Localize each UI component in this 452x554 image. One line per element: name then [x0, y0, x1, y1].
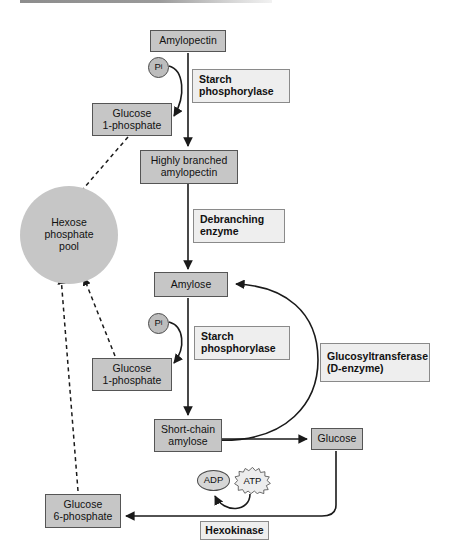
arrow-pi-to-glucose-1-phosphate-bottom [169, 322, 182, 363]
node-highly-branched-amylopectin: Highly branched amylopectin [140, 150, 238, 184]
cofactor-pi-bottom-subscript: i [161, 319, 163, 327]
cofactor-atp-label: ATP [234, 467, 271, 494]
enzyme-glucosyltransferase-line1: Glucosyltransferase [327, 351, 428, 363]
cofactor-atp: ATP [234, 467, 271, 494]
cofactor-pi-top-subscript: i [161, 63, 163, 71]
cofactor-pi-top: Pi [148, 57, 169, 78]
enzyme-starch-phosphorylase-bottom: Starch phosphorylase [194, 326, 290, 360]
node-highly-branched-amylopectin-line2: amylopectin [161, 167, 218, 179]
enzyme-glucosyltransferase-line2: (D-enzyme) [327, 363, 384, 375]
arrow-atp-to-adp [215, 494, 250, 509]
cofactor-adp: ADP [197, 470, 230, 491]
enzyme-starch-phosphorylase-top-line2: phosphorylase [199, 86, 274, 98]
cofactor-adp-label: ADP [204, 475, 224, 486]
node-glucose-6-phosphate-line2: 6-phosphate [54, 511, 113, 523]
node-amylopectin: Amylopectin [150, 30, 226, 52]
node-amylose: Amylose [154, 272, 228, 297]
arrow-glucose-to-glucose-6-phosphate [126, 451, 336, 516]
node-short-chain-amylose: Short-chain amylose [154, 419, 222, 452]
node-short-chain-amylose-line1: Short-chain [161, 424, 215, 436]
enzyme-starch-phosphorylase-top: Starch phosphorylase [192, 69, 290, 103]
node-short-chain-amylose-line2: amylose [168, 436, 207, 448]
enzyme-debranching-enzyme: Debranching enzyme [193, 209, 285, 243]
arrow-glucosyltransferase-loop [213, 284, 318, 440]
cofactor-pi-bottom: Pi [148, 313, 169, 334]
dashed-glucose-6-phosphate-to-pool [61, 277, 78, 491]
node-glucose-1-phosphate-top-line1: Glucose [113, 108, 152, 120]
dashed-glucose-1-phosphate-top-to-pool [77, 137, 128, 196]
enzyme-hexokinase: Hexokinase [200, 521, 269, 540]
dashed-glucose-1-phosphate-bottom-to-pool [84, 278, 115, 356]
node-glucose-1-phosphate-top-line2: 1-phosphate [103, 120, 162, 132]
node-hexose-phosphate-pool-line3: pool [59, 241, 79, 253]
node-glucose-6-phosphate: Glucose 6-phosphate [45, 494, 121, 528]
node-glucose-1-phosphate-bottom: Glucose 1-phosphate [92, 358, 172, 391]
enzyme-hexokinase-label: Hexokinase [205, 525, 263, 537]
node-amylose-label: Amylose [171, 279, 212, 291]
node-glucose-label: Glucose [318, 433, 357, 445]
enzyme-glucosyltransferase: Glucosyltransferase (D-enzyme) [320, 343, 430, 382]
enzyme-starch-phosphorylase-bottom-line2: phosphorylase [201, 343, 276, 355]
node-glucose-1-phosphate-top: Glucose 1-phosphate [92, 103, 172, 136]
node-amylopectin-label: Amylopectin [159, 35, 217, 47]
enzyme-debranching-enzyme-line2: enzyme [200, 226, 239, 238]
node-hexose-phosphate-pool: Hexose phosphate pool [20, 186, 118, 284]
node-glucose-1-phosphate-bottom-line1: Glucose [113, 363, 152, 375]
node-glucose: Glucose [311, 428, 363, 450]
pathway-diagram: Amylopectin Pi Starch phosphorylase Gluc… [0, 0, 452, 554]
node-glucose-1-phosphate-bottom-line2: 1-phosphate [103, 375, 162, 387]
